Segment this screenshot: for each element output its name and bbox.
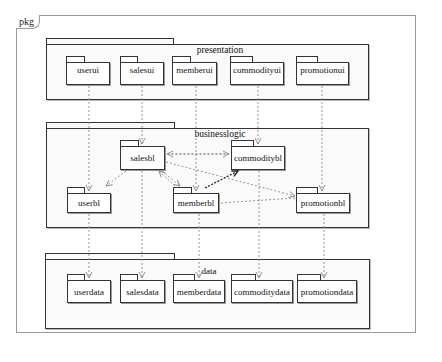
package-commodityui[interactable]: commodityui xyxy=(230,62,284,85)
package-data-title: data xyxy=(194,266,224,276)
package-userui[interactable]: userui xyxy=(66,62,110,85)
package-userdata-label: userdata xyxy=(74,287,104,297)
package-commoditybl[interactable]: commoditybl xyxy=(231,146,285,170)
package-businesslogic[interactable] xyxy=(46,128,369,228)
package-userbl-label: userbl xyxy=(78,198,100,208)
package-memberui[interactable]: memberui xyxy=(172,62,217,85)
package-memberdata[interactable]: memberdata xyxy=(173,280,225,303)
package-promotiondata-label: promotiondata xyxy=(301,287,354,297)
package-commoditydata[interactable]: commoditydata xyxy=(231,280,293,303)
package-memberbl[interactable]: memberbl xyxy=(173,193,219,213)
package-userui-label: userui xyxy=(77,65,99,75)
package-promotionbl[interactable]: promotionbl xyxy=(296,193,350,213)
package-salesbl[interactable]: salesbl xyxy=(120,146,165,170)
package-salesui[interactable]: salesui xyxy=(120,62,164,85)
pkg-frame-label: pkg xyxy=(16,15,39,29)
package-salesui-label: salesui xyxy=(130,65,155,75)
package-memberbl-label: memberbl xyxy=(178,198,215,208)
pkg-frame-label-box: pkg xyxy=(16,15,40,29)
package-userbl[interactable]: userbl xyxy=(67,193,111,213)
package-memberui-label: memberui xyxy=(176,65,213,75)
package-salesdata[interactable]: salesdata xyxy=(120,280,165,303)
package-commoditydata-label: commoditydata xyxy=(234,287,290,297)
package-commoditybl-label: commoditybl xyxy=(234,153,282,163)
package-promotionui-label: promotionui xyxy=(300,65,345,75)
package-userdata[interactable]: userdata xyxy=(67,280,111,303)
package-salesbl-label: salesbl xyxy=(130,153,155,163)
package-promotionbl-label: promotionbl xyxy=(301,198,346,208)
package-salesdata-label: salesdata xyxy=(126,287,158,297)
package-presentation-title: presentation xyxy=(180,45,260,55)
package-memberdata-label: memberdata xyxy=(177,287,221,297)
package-commodityui-label: commodityui xyxy=(233,65,281,75)
package-promotionui[interactable]: promotionui xyxy=(296,62,349,85)
package-promotiondata[interactable]: promotiondata xyxy=(297,280,357,303)
package-businesslogic-title: businesslogic xyxy=(180,129,260,139)
